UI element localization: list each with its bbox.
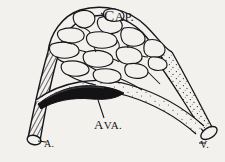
label-capillaries-rest: AP. xyxy=(115,9,135,24)
label-capillaries: CAP. xyxy=(104,8,134,23)
label-anastomosis: AVA. xyxy=(94,118,122,131)
figure-drawing xyxy=(0,0,225,162)
label-capillaries-initial: C xyxy=(104,7,115,24)
anatomical-figure: CAP. AVA. A. V. xyxy=(0,0,225,162)
label-artery: A. xyxy=(44,139,55,149)
label-anastomosis-initial: A xyxy=(94,117,104,132)
ava-leader xyxy=(98,100,104,118)
label-vein: V. xyxy=(200,140,209,150)
ava-dark-channel xyxy=(38,86,124,109)
label-anastomosis-rest: VA. xyxy=(104,119,122,131)
